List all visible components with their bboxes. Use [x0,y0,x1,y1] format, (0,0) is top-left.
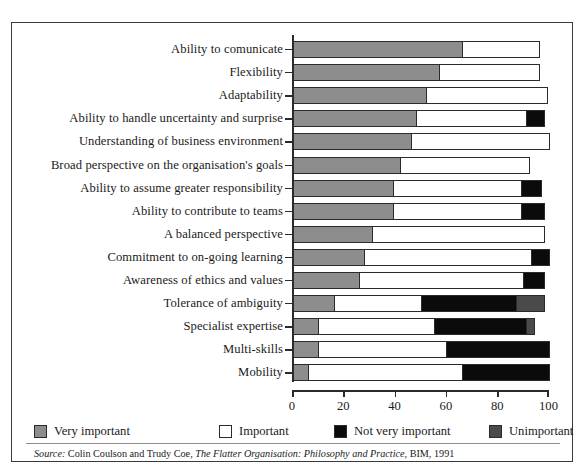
y-axis-tick [285,211,292,212]
bar-segment[interactable] [294,133,412,150]
stacked-bar[interactable] [294,272,545,289]
category-label: Specialist expertise [183,317,283,336]
stacked-bar[interactable] [294,341,550,358]
x-axis-tick-label: 60 [440,399,453,414]
y-axis-tick [285,372,292,373]
legend-item[interactable]: Not very important [334,420,451,442]
bar-segment[interactable] [440,64,540,81]
bar-segment[interactable] [294,110,417,127]
bar-segment[interactable] [435,318,527,335]
category-label: Broad perspective on the organisation's … [51,156,283,175]
bar-segment[interactable] [447,341,550,358]
bar-segment[interactable] [294,272,361,289]
bar-segment[interactable] [365,249,532,266]
bar-segment[interactable] [294,249,366,266]
legend-item[interactable]: Very important [34,420,130,442]
legend-label: Unimportant [509,424,573,439]
y-axis-tick [285,326,292,327]
bar-segment[interactable] [319,341,447,358]
stacked-bar[interactable] [294,318,535,335]
x-axis: 020406080100 [292,390,560,424]
bar-segment[interactable] [294,226,374,243]
bar-segment[interactable] [335,295,422,312]
bar-segment[interactable] [294,87,427,104]
x-axis-tick-label: 0 [289,399,295,414]
bar-segment[interactable] [463,41,540,58]
source-work-title: The Flatter Organisation: Philosophy and… [195,448,407,459]
bar-segment[interactable] [294,180,394,197]
y-axis-tick [285,118,292,119]
bar-segment[interactable] [527,110,545,127]
x-axis-tick-label: 40 [388,399,401,414]
stacked-bar[interactable] [294,295,545,312]
bar-segment[interactable] [360,272,524,289]
bar-segment[interactable] [522,180,543,197]
x-axis-tick [446,390,447,397]
stacked-bar[interactable] [294,364,550,381]
stacked-bar[interactable] [294,87,548,104]
legend-swatch-icon [334,425,347,438]
bar-segment[interactable] [294,341,320,358]
stacked-bar[interactable] [294,157,530,174]
x-axis-endcap [292,390,294,397]
bar-segment[interactable] [422,295,517,312]
stacked-bar[interactable] [294,64,540,81]
source-publisher: BIM, 1991 [410,448,455,459]
category-label: Ability to handle uncertainty and surpri… [69,109,283,128]
category-label: Adaptability [219,86,283,105]
legend-swatch-icon [34,425,47,438]
bar-segment[interactable] [532,249,550,266]
stacked-bar[interactable] [294,110,545,127]
x-axis-tick [497,390,498,397]
source-caption: Source: Colin Coulson and Trudy Coe, The… [34,447,564,460]
y-axis-tick [285,280,292,281]
x-axis-tick-label: 100 [539,399,558,414]
x-axis-tick [343,390,344,397]
category-label: Awareness of ethics and values [123,271,283,290]
bar-segment[interactable] [294,318,320,335]
category-label: Flexibility [229,63,283,82]
bar-segment[interactable] [294,203,394,220]
category-label: Understanding of business environment [79,132,283,151]
bar-segment[interactable] [294,157,402,174]
bar-segment[interactable] [294,295,335,312]
legend-swatch-icon [489,425,502,438]
stacked-bar[interactable] [294,203,545,220]
bar-segment[interactable] [427,87,548,104]
bar-segment[interactable] [373,226,545,243]
bar-segment[interactable] [394,203,522,220]
bar-segment[interactable] [394,180,522,197]
bar-segment[interactable] [524,272,545,289]
source-prefix: Source: [34,448,65,459]
legend-item[interactable]: Unimportant [489,420,573,442]
bar-segment[interactable] [522,203,545,220]
category-label: Multi-skills [223,340,283,359]
bar-segment[interactable] [309,364,463,381]
bar-segment[interactable] [294,64,440,81]
bar-segment[interactable] [319,318,434,335]
legend-label: Very important [54,424,130,439]
category-label: A balanced perspective [164,225,283,244]
y-axis-tick [285,165,292,166]
bar-segment[interactable] [417,110,527,127]
y-axis-tick [285,72,292,73]
stacked-bar[interactable] [294,41,540,58]
bar-segment[interactable] [294,41,463,58]
bar-segment[interactable] [527,318,535,335]
x-axis-endcap [547,390,549,397]
chart-frame: Ability to comunicateFlexibilityAdaptabi… [11,22,573,462]
legend-divider [26,443,560,444]
stacked-bar[interactable] [294,180,543,197]
y-axis-tick [285,303,292,304]
bar-segment[interactable] [463,364,550,381]
bar-segment[interactable] [294,364,309,381]
bar-segment[interactable] [517,295,545,312]
stacked-bar[interactable] [294,226,545,243]
stacked-bar[interactable] [294,133,550,150]
x-axis-tick [395,390,396,397]
x-axis-line [292,390,549,392]
bar-segment[interactable] [412,133,551,150]
stacked-bar[interactable] [294,249,550,266]
legend-item[interactable]: Important [219,420,289,442]
bar-segment[interactable] [401,157,529,174]
